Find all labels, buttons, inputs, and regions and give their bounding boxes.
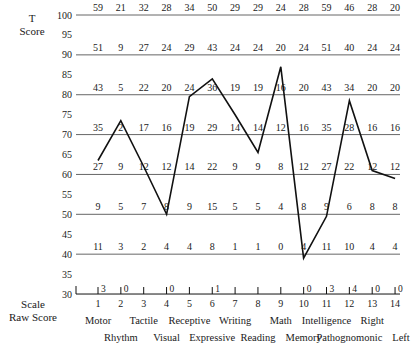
raw-score-cell: 28 bbox=[344, 122, 354, 133]
raw-score-cell: 6 bbox=[347, 201, 352, 212]
raw-score-cell: 9 bbox=[96, 201, 101, 212]
raw-score-cell: 12 bbox=[162, 161, 172, 172]
raw-score-cell: 16 bbox=[367, 122, 377, 133]
x-tick-label: 10 bbox=[299, 298, 309, 309]
raw-score-cell: 0 bbox=[124, 284, 129, 294]
raw-score-cell: 28 bbox=[367, 2, 377, 13]
raw-score-cell: 4 bbox=[278, 201, 283, 212]
raw-score-cell: 11 bbox=[93, 241, 103, 252]
raw-score-cell: 14 bbox=[230, 122, 240, 133]
raw-score-cell: 24 bbox=[162, 42, 172, 53]
x-tick-label: 2 bbox=[118, 298, 123, 309]
raw-score-cell: 3 bbox=[118, 241, 123, 252]
raw-score-cell: 24 bbox=[253, 42, 263, 53]
raw-score-cell: 4 bbox=[187, 241, 192, 252]
x-tick-label: 13 bbox=[367, 298, 377, 309]
scale-label-receptive: Receptive bbox=[168, 315, 210, 326]
raw-score-cell: 5 bbox=[233, 201, 238, 212]
raw-score-cell: 9 bbox=[233, 161, 238, 172]
raw-score-cell: 20 bbox=[367, 82, 377, 93]
raw-score-cell: 20 bbox=[276, 42, 286, 53]
raw-score-cell: 50 bbox=[207, 2, 217, 13]
raw-score-cell: 2 bbox=[141, 241, 146, 252]
raw-score-cell: 40 bbox=[344, 42, 354, 53]
x-axis: 1320340561789100113124130140 bbox=[76, 284, 403, 309]
x-tick-label: 8 bbox=[255, 298, 260, 309]
x-tick-label: 1 bbox=[96, 298, 101, 309]
y-axis-tick-labels: 1009590858075706560555045403530 bbox=[57, 10, 72, 300]
raw-score-cell: 29 bbox=[230, 2, 240, 13]
raw-score-cell: 1 bbox=[255, 241, 260, 252]
y-tick-45: 45 bbox=[62, 229, 72, 240]
raw-score-cell: 29 bbox=[253, 2, 263, 13]
raw-score-cell: 34 bbox=[184, 2, 194, 13]
raw-score-cell: 43 bbox=[93, 82, 103, 93]
raw-score-cell: 19 bbox=[230, 82, 240, 93]
raw-score-cell: 8 bbox=[210, 241, 215, 252]
raw-score-cell: 11 bbox=[322, 241, 332, 252]
raw-score-cell: 24 bbox=[276, 2, 286, 13]
raw-score-cell: 35 bbox=[93, 122, 103, 133]
raw-score-cell: 22 bbox=[344, 161, 354, 172]
raw-score-cell: 24 bbox=[390, 42, 400, 53]
x-axis-scale-labels: MotorRhythmTactileVisualReceptiveExpress… bbox=[85, 315, 410, 343]
raw-score-cell: 5 bbox=[118, 82, 123, 93]
raw-score-cell: 43 bbox=[207, 42, 217, 53]
raw-score-cell: 22 bbox=[207, 161, 217, 172]
raw-score-cell: 24 bbox=[367, 42, 377, 53]
y-tick-90: 90 bbox=[62, 49, 72, 60]
y-tick-100: 100 bbox=[57, 10, 72, 21]
raw-score-cell: 9 bbox=[187, 201, 192, 212]
scale-label-right: Right bbox=[361, 315, 384, 326]
scale-label-tactile: Tactile bbox=[129, 315, 158, 326]
x-tick-label: 14 bbox=[390, 298, 400, 309]
raw-score-cell: 28 bbox=[162, 2, 172, 13]
raw-score-cell: 43 bbox=[322, 82, 332, 93]
x-tick-label: 6 bbox=[210, 298, 215, 309]
raw-score-cell: 1 bbox=[215, 284, 220, 294]
raw-score-cell: 59 bbox=[93, 2, 103, 13]
raw-score-cell: 22 bbox=[139, 82, 149, 93]
raw-score-cell: 3 bbox=[330, 284, 335, 294]
y-tick-85: 85 bbox=[62, 69, 72, 80]
raw-score-cell: 20 bbox=[390, 82, 400, 93]
y-tick-75: 75 bbox=[62, 109, 72, 120]
raw-score-cell: 10 bbox=[344, 241, 354, 252]
raw-score-cell: 0 bbox=[375, 284, 380, 294]
raw-score-cell: 24 bbox=[184, 82, 194, 93]
scale-label-pathognomonic: Pathognomonic bbox=[316, 332, 382, 343]
raw-score-cell: 4 bbox=[164, 241, 169, 252]
raw-score-cell: 46 bbox=[344, 2, 354, 13]
raw-score-cell: 7 bbox=[141, 201, 146, 212]
raw-score-cell: 27 bbox=[322, 161, 332, 172]
raw-score-cell: 24 bbox=[230, 42, 240, 53]
scale-label-intelligence: Intelligence bbox=[302, 315, 352, 326]
raw-score-cell: 21 bbox=[116, 2, 126, 13]
raw-score-cell: 19 bbox=[184, 122, 194, 133]
raw-score-cell: 5 bbox=[118, 201, 123, 212]
raw-score-cell: 0 bbox=[278, 241, 283, 252]
scale-label-visual: Visual bbox=[153, 332, 180, 343]
scale-label-motor: Motor bbox=[85, 315, 112, 326]
raw-score-cell: 28 bbox=[299, 2, 309, 13]
y-tick-60: 60 bbox=[62, 169, 72, 180]
raw-score-cell: 1 bbox=[233, 241, 238, 252]
x-tick-label: 3 bbox=[141, 298, 146, 309]
raw-score-cell: 34 bbox=[344, 82, 354, 93]
raw-score-cell: 8 bbox=[393, 201, 398, 212]
raw-score-cell: 9 bbox=[118, 161, 123, 172]
raw-score-cell: 59 bbox=[322, 2, 332, 13]
raw-score-cell: 16 bbox=[299, 122, 309, 133]
raw-score-cell: 51 bbox=[322, 42, 332, 53]
y-tick-40: 40 bbox=[62, 249, 72, 260]
y-tick-30: 30 bbox=[62, 289, 72, 300]
raw-score-cell: 4 bbox=[352, 284, 357, 294]
x-tick-label: 5 bbox=[187, 298, 192, 309]
scale-label-left: Left bbox=[392, 332, 410, 343]
raw-score-cell: 32 bbox=[139, 2, 149, 13]
scale-label-expressive: Expressive bbox=[189, 332, 235, 343]
raw-score-cell: 16 bbox=[390, 122, 400, 133]
y-tick-95: 95 bbox=[62, 29, 72, 40]
raw-score-cell: 0 bbox=[307, 284, 312, 294]
raw-score-cell: 35 bbox=[322, 122, 332, 133]
